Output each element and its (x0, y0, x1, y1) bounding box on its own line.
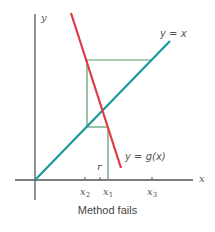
y-axis-label: y (41, 13, 47, 23)
tick-label-x2: x2 (80, 187, 90, 199)
tick-label-r: r (97, 162, 102, 172)
g-curve-label: y = g(x) (125, 152, 166, 162)
x-axis-label: x (199, 174, 205, 184)
tick-label-x3: x3 (147, 187, 157, 199)
identity-line-label: y = x (160, 29, 187, 39)
fixed-point-iteration-diagram: y x y = x y = g(x) x2 r x1 x3 Method fai… (0, 0, 215, 232)
tick-label-x1: x1 (103, 187, 113, 199)
g-curve (71, 13, 121, 168)
figure-caption: Method fails (0, 204, 215, 216)
